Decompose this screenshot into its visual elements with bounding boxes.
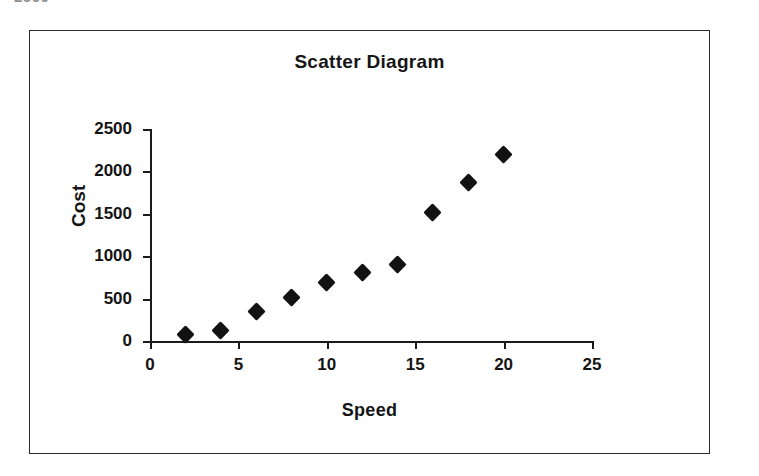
data-point [424, 204, 442, 222]
truncated-header-text: 2500 [14, 0, 49, 5]
y-tick-label: 500 [104, 289, 132, 309]
data-point [353, 263, 371, 281]
y-axis-title: Cost [68, 185, 90, 227]
x-tick [150, 341, 152, 349]
x-axis-title: Speed [30, 400, 709, 421]
x-tick [327, 341, 329, 349]
data-point [247, 302, 265, 320]
y-tick: 1000 [143, 256, 151, 258]
data-point [318, 273, 336, 291]
y-tick: 1500 [143, 214, 151, 216]
y-tick-label: 2500 [94, 119, 132, 139]
data-point [282, 289, 300, 307]
data-point [459, 173, 477, 191]
x-tick-label: 10 [317, 355, 336, 375]
y-tick: 2000 [143, 171, 151, 173]
y-tick: 2500 [143, 129, 151, 131]
x-tick-label: 5 [234, 355, 243, 375]
x-tick [238, 341, 240, 349]
x-tick [504, 341, 506, 349]
data-point [494, 145, 512, 163]
y-axis-line [150, 129, 152, 342]
chart-title: Scatter Diagram [30, 51, 709, 73]
chart-frame: Scatter Diagram 05001000150020002500 051… [29, 30, 710, 454]
x-tick-label: 20 [494, 355, 513, 375]
y-tick-label: 1000 [94, 246, 132, 266]
x-axis-line [150, 341, 593, 343]
y-tick-label: 2000 [94, 161, 132, 181]
plot-area: 05001000150020002500 0510152025 [150, 129, 592, 341]
y-tick: 500 [143, 299, 151, 301]
data-point [212, 322, 230, 340]
x-tick [592, 341, 594, 349]
x-tick-label: 15 [406, 355, 425, 375]
x-tick-label: 0 [145, 355, 154, 375]
y-tick-label: 0 [123, 331, 132, 351]
data-point [388, 255, 406, 273]
x-tick-label: 25 [583, 355, 602, 375]
x-tick [415, 341, 417, 349]
y-tick-label: 1500 [94, 204, 132, 224]
